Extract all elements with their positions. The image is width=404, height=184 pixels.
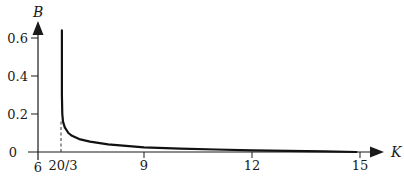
y-tick-label: 0.6 xyxy=(7,31,28,46)
x-tick-label: 6 xyxy=(34,160,42,175)
x-tick-label: 15 xyxy=(352,158,369,173)
curve-line xyxy=(62,30,357,152)
x-tick-label: 20/3 xyxy=(48,158,77,173)
y-ticks: 00.20.40.6 xyxy=(7,31,38,160)
x-ticks: 620/391215 xyxy=(34,152,368,175)
y-tick-label: 0 xyxy=(9,145,17,160)
y-axis-arrow-icon xyxy=(33,21,44,35)
x-axis-arrow-icon xyxy=(370,147,384,158)
x-tick-label: 12 xyxy=(244,158,261,173)
chart: 620/391215 00.20.40.6 K B xyxy=(0,0,404,184)
x-tick-label: 9 xyxy=(140,158,148,173)
x-axis-label: K xyxy=(390,144,403,160)
y-tick-label: 0.2 xyxy=(7,107,28,122)
y-tick-label: 0.4 xyxy=(7,69,28,84)
y-axis-label: B xyxy=(32,4,43,20)
